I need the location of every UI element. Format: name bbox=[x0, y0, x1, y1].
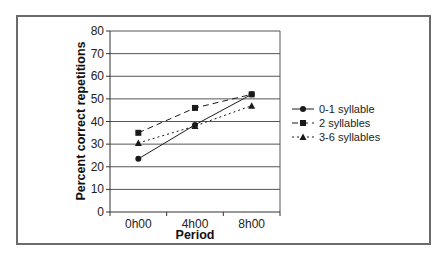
x-tick-label: 0h00 bbox=[125, 217, 152, 231]
series-2-syllables bbox=[135, 91, 254, 135]
y-tick-label: 50 bbox=[91, 92, 105, 106]
gridlines bbox=[110, 31, 280, 212]
legend-label: 3-6 syllables bbox=[319, 131, 381, 143]
y-tick-label: 10 bbox=[91, 182, 105, 196]
y-tick-label: 80 bbox=[91, 24, 105, 38]
x-tick-label: 8h00 bbox=[238, 217, 265, 231]
y-tick-label: 40 bbox=[91, 115, 105, 129]
legend-item: 3-6 syllables bbox=[292, 131, 381, 143]
legend-item: 0-1 syllable bbox=[292, 103, 375, 115]
x-axis-title: Period bbox=[176, 228, 215, 242]
legend: 0-1 syllable2 syllables3-6 syllables bbox=[292, 103, 381, 143]
y-tick-label: 60 bbox=[91, 69, 105, 83]
y-tick-label: 0 bbox=[97, 205, 104, 219]
y-axis: 01020304050607080 bbox=[91, 24, 110, 219]
legend-label: 0-1 syllable bbox=[319, 103, 375, 115]
y-tick-label: 70 bbox=[91, 47, 105, 61]
y-tick-label: 20 bbox=[91, 160, 105, 174]
line-chart: 01020304050607080 0h004h008h00 Percent c… bbox=[0, 0, 446, 261]
series-group bbox=[135, 91, 255, 161]
legend-item: 2 syllables bbox=[292, 117, 371, 129]
legend-label: 2 syllables bbox=[319, 117, 371, 129]
y-axis-title: Percent correct repetitions bbox=[74, 41, 88, 200]
y-tick-label: 30 bbox=[91, 137, 105, 151]
